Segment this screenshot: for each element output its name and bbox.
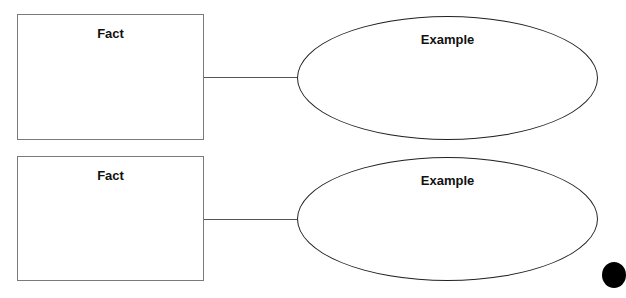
- fact-box-1: Fact: [17, 14, 204, 140]
- fact-label-1: Fact: [18, 26, 203, 41]
- edge-circle-icon: [602, 262, 626, 288]
- example-ellipse-2: Example: [297, 157, 598, 281]
- example-label-1: Example: [298, 32, 597, 47]
- example-ellipse-1: Example: [297, 16, 598, 140]
- fact-label-2: Fact: [18, 168, 203, 183]
- connector-line-2: [204, 219, 298, 220]
- example-label-2: Example: [298, 173, 597, 188]
- connector-line-1: [204, 77, 298, 78]
- fact-box-2: Fact: [17, 156, 204, 281]
